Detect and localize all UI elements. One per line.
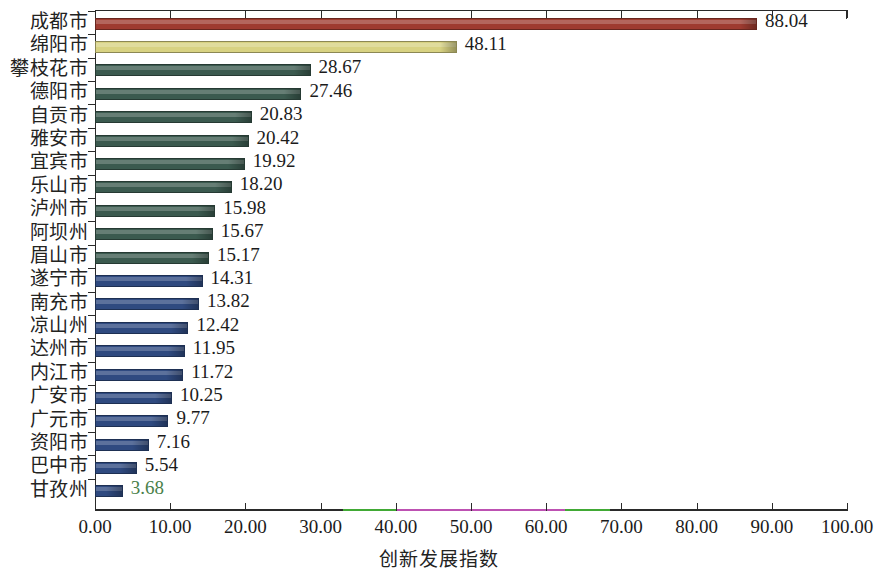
bar-value-label: 20.42 [257,132,300,144]
bar [95,298,199,310]
category-label: 资阳市 [30,431,89,456]
x-axis-tick-label: 30.00 [299,516,342,538]
y-axis-tick [88,292,95,293]
bar-highlight [96,90,300,94]
category-label: 德阳市 [30,80,89,105]
bar-tip-shading [166,370,182,380]
x-axis-tick-label: 50.00 [450,516,493,538]
x-axis-tick [95,503,96,511]
y-axis-tick [88,268,95,269]
bar-value-label: 12.42 [196,319,239,331]
bar-value-label: 19.92 [253,155,296,167]
x-axis-tick [471,503,472,511]
bar-tip-shading [440,42,456,52]
bar-value-label: 5.54 [145,459,178,471]
category-label: 广安市 [30,384,89,409]
bar [95,41,457,53]
bar-value-label: 27.46 [309,85,352,97]
bar-tip-shading [235,112,251,122]
category-label: 宜宾市 [30,150,89,175]
y-axis-tick [88,362,95,363]
bar [95,18,757,30]
bar-tip-shading [284,89,300,99]
y-axis-tick [88,455,95,456]
bar-tip-shading [171,323,187,333]
y-axis-tick [88,245,95,246]
y-axis-tick [88,409,95,410]
bar-tip-shading [155,393,171,403]
y-axis-tick [88,11,95,12]
bar [95,135,249,147]
bar-tip-shading [198,206,214,216]
bar-highlight [96,43,456,47]
x-axis-tick [546,503,547,511]
y-axis-tick [88,151,95,152]
y-axis-tick [88,198,95,199]
plot-area: 88.0448.1128.6727.4620.8320.4219.9218.20… [95,10,847,511]
x-axis-tick [697,503,698,511]
bar-value-label: 9.77 [176,412,209,424]
bar-value-label: 14.31 [211,272,254,284]
bar-chart: 成都市绵阳市攀枝花市德阳市自贡市雅安市宜宾市乐山市泸州市阿坝州眉山市遂宁市南充市… [0,0,877,571]
bar [95,158,245,170]
category-label: 乐山市 [30,174,89,199]
bar-tip-shading [151,416,167,426]
x-axis-tick-label: 70.00 [600,516,643,538]
bar-tip-shading [182,299,198,309]
y-axis-tick [88,104,95,105]
category-label: 遂宁市 [30,267,89,292]
bar [95,439,149,451]
bar [95,369,183,381]
category-label: 绵阳市 [30,33,89,58]
x-axis-tick-top [621,10,622,18]
bar [95,228,213,240]
bar [95,322,188,334]
axis-tint-segment [397,509,565,511]
category-label: 泸州市 [30,197,89,222]
x-axis-tick-top [847,10,848,18]
bar [95,415,168,427]
bar-tip-shading [215,182,231,192]
x-axis-tick-top [772,10,773,18]
bar [95,88,301,100]
bar-tip-shading [168,346,184,356]
bar [95,462,137,474]
category-label: 巴中市 [30,454,89,479]
x-axis-tick-label: 90.00 [750,516,793,538]
y-axis-tick [88,34,95,35]
bar-highlight [96,66,310,70]
x-axis-tick-label: 0.00 [78,516,111,538]
category-label: 内江市 [30,361,89,386]
bar-value-label: 18.20 [240,178,283,190]
bar [95,111,252,123]
y-axis-tick [88,128,95,129]
x-axis-tick-top [245,10,246,18]
axis-tint-segment [343,509,397,511]
bar [95,205,215,217]
x-axis-tick [847,503,848,511]
y-axis-tick [88,385,95,386]
category-label: 攀枝花市 [10,57,88,82]
x-axis-tick-top [471,10,472,18]
bar-highlight [96,113,251,117]
bar-tip-shading [740,19,756,29]
x-axis-title: 创新发展指数 [0,544,877,571]
bar-tip-shading [232,136,248,146]
x-axis-tick [245,503,246,511]
x-axis-tick-label: 20.00 [224,516,267,538]
bar-value-label: 11.95 [193,342,235,354]
x-axis-tick [772,503,773,511]
bar-value-label: 20.83 [260,108,303,120]
y-axis-tick [88,432,95,433]
bar-tip-shading [196,229,212,239]
category-label: 眉山市 [30,244,89,269]
bar [95,181,232,193]
bar-highlight [96,230,212,234]
y-axis-tick [88,58,95,59]
bar-tip-shading [120,463,136,473]
x-axis-tick [321,503,322,511]
x-axis-tick-top [396,10,397,18]
bar-value-label: 13.82 [207,295,250,307]
bar-highlight [96,207,214,211]
bar-highlight [96,183,231,187]
